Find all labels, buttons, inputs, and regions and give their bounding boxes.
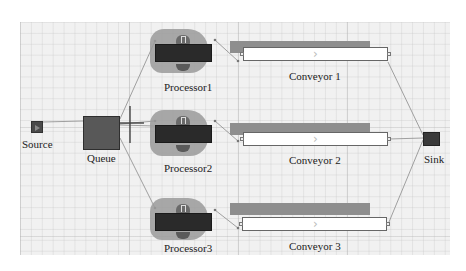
- processor-body: [155, 44, 212, 62]
- processor-body: [155, 125, 212, 143]
- conveyor-shadow: [230, 203, 370, 215]
- source-label: Source: [22, 138, 53, 150]
- source-block[interactable]: [31, 121, 43, 133]
- processor-label: Processor2: [164, 162, 212, 174]
- input-port[interactable]: [240, 52, 244, 56]
- output-port[interactable]: [387, 52, 391, 56]
- conveyor-label: Conveyor 2: [289, 154, 341, 166]
- queue-label: Queue: [87, 152, 116, 164]
- processor-label: Processor3: [164, 242, 212, 254]
- sink-block[interactable]: [423, 132, 440, 146]
- input-port[interactable]: [239, 222, 243, 226]
- input-port[interactable]: [240, 137, 244, 141]
- direction-chevron-icon: ›: [313, 133, 318, 145]
- output-port[interactable]: [387, 137, 391, 141]
- conveyor-label: Conveyor 1: [289, 70, 341, 82]
- processor-label: Processor1: [164, 81, 212, 93]
- conveyor-label: Conveyor 3: [289, 240, 341, 252]
- processor-body: [155, 213, 212, 231]
- direction-chevron-icon: ›: [313, 48, 318, 60]
- sink-label: Sink: [424, 153, 444, 165]
- output-port[interactable]: [386, 222, 390, 226]
- queue-block[interactable]: [83, 116, 120, 150]
- direction-chevron-icon: ›: [313, 218, 318, 230]
